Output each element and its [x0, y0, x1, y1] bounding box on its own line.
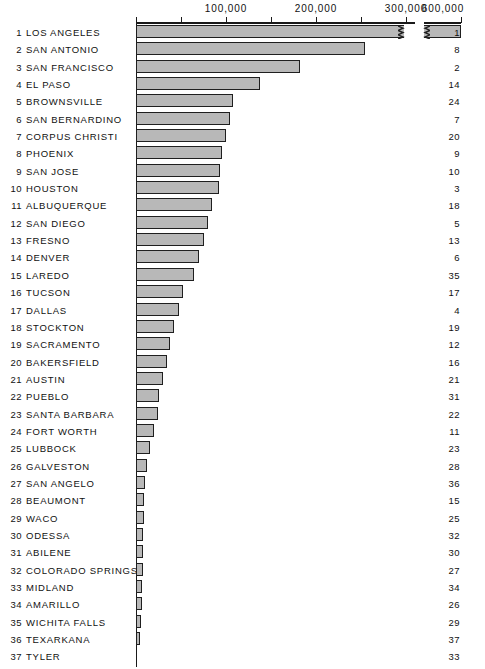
row-right-rank: 30 [440, 547, 460, 558]
row-city-label: TUCSON [26, 287, 71, 298]
chart-row: 3SAN FRANCISCO2 [0, 59, 485, 76]
row-right-rank: 4 [440, 305, 460, 316]
row-rank: 8 [4, 148, 22, 159]
row-right-rank: 20 [440, 131, 460, 142]
row-rank: 20 [4, 357, 22, 368]
bar [136, 632, 140, 645]
row-rank: 2 [4, 44, 22, 55]
bar [136, 320, 174, 333]
row-city-label: LUBBOCK [26, 443, 77, 454]
row-city-label: CORPUS CHRISTI [26, 131, 118, 142]
row-rank: 31 [4, 547, 22, 558]
row-rank: 16 [4, 287, 22, 298]
row-rank: 3 [4, 62, 22, 73]
row-rank: 33 [4, 582, 22, 593]
chart-row: 7CORPUS CHRISTI20 [0, 128, 485, 145]
row-city-label: ABILENE [26, 547, 71, 558]
row-right-rank: 25 [440, 513, 460, 524]
bar [136, 60, 300, 73]
row-right-rank: 5 [440, 218, 460, 229]
chart-row: 22PUEBLO31 [0, 388, 485, 405]
row-city-label: GALVESTON [26, 461, 90, 472]
row-city-label: SAN ANTONIO [26, 44, 99, 55]
chart-row: 6SAN BERNARDINO7 [0, 111, 485, 128]
row-rank: 27 [4, 478, 22, 489]
chart-row: 20BAKERSFIELD16 [0, 354, 485, 371]
row-city-label: LAREDO [26, 270, 70, 281]
row-rank: 10 [4, 183, 22, 194]
row-rank: 22 [4, 391, 22, 402]
chart-row: 32COLORADO SPRINGS27 [0, 562, 485, 579]
row-right-rank: 11 [440, 426, 460, 437]
chart-row: 19SACRAMENTO12 [0, 336, 485, 353]
bar [136, 146, 222, 159]
row-rank: 7 [4, 131, 22, 142]
tick-600000 [461, 17, 462, 23]
row-city-label: STOCKTON [26, 322, 84, 333]
row-right-rank: 27 [440, 565, 460, 576]
row-city-label: DALLAS [26, 305, 67, 316]
row-rank: 4 [4, 79, 22, 90]
row-city-label: SACRAMENTO [26, 339, 100, 350]
chart-row: 23SANTA BARBARA22 [0, 406, 485, 423]
row-rank: 35 [4, 617, 22, 628]
chart-row: 14DENVER6 [0, 249, 485, 266]
row-right-rank: 9 [440, 148, 460, 159]
chart-row: 13FRESNO13 [0, 232, 485, 249]
row-right-rank: 17 [440, 287, 460, 298]
row-rank: 5 [4, 96, 22, 107]
row-right-rank: 14 [440, 79, 460, 90]
row-rank: 12 [4, 218, 22, 229]
row-right-rank: 21 [440, 374, 460, 385]
bar [136, 389, 159, 402]
chart-row: 9SAN JOSE10 [0, 163, 485, 180]
chart-row: 30ODESSA32 [0, 527, 485, 544]
row-right-rank: 8 [440, 44, 460, 55]
row-city-label: SAN FRANCISCO [26, 62, 114, 73]
chart-row: 29WACO25 [0, 510, 485, 527]
chart-row: 27SAN ANGELO36 [0, 475, 485, 492]
bar [136, 303, 179, 316]
row-rank: 11 [4, 200, 22, 211]
row-rank: 13 [4, 235, 22, 246]
bar [136, 615, 141, 628]
row-rank: 9 [4, 166, 22, 177]
bar [136, 77, 260, 90]
row-rank: 21 [4, 374, 22, 385]
row-city-label: TYLER [26, 651, 60, 662]
chart-row: 34AMARILLO26 [0, 596, 485, 613]
bar [136, 112, 230, 125]
row-right-rank: 3 [440, 183, 460, 194]
row-rank: 25 [4, 443, 22, 454]
row-rank: 14 [4, 252, 22, 263]
bar [136, 493, 144, 506]
row-city-label: SAN DIEGO [26, 218, 86, 229]
chart-row: 1LOS ANGELES1 [0, 24, 485, 41]
chart-row: 5BROWNSVILLE24 [0, 93, 485, 110]
row-right-rank: 22 [440, 409, 460, 420]
chart-rows: 1LOS ANGELES12SAN ANTONIO83SAN FRANCISCO… [0, 24, 485, 666]
row-right-rank: 33 [440, 651, 460, 662]
row-rank: 6 [4, 114, 22, 125]
bar [136, 459, 147, 472]
row-right-rank: 6 [440, 252, 460, 263]
row-city-label: DENVER [26, 252, 70, 263]
row-city-label: ALBUQUERQUE [26, 200, 107, 211]
chart-row: 36TEXARKANA37 [0, 631, 485, 648]
row-rank: 23 [4, 409, 22, 420]
row-right-rank: 31 [440, 391, 460, 402]
row-right-rank: 29 [440, 617, 460, 628]
bar [136, 129, 226, 142]
bar [136, 250, 199, 263]
row-city-label: PHOENIX [26, 148, 74, 159]
chart-row: 12SAN DIEGO5 [0, 215, 485, 232]
row-right-rank: 16 [440, 357, 460, 368]
bar [136, 580, 142, 593]
chart-row: 8PHOENIX9 [0, 145, 485, 162]
axis-label-100000: 100,000 [205, 3, 247, 14]
row-right-rank: 37 [440, 634, 460, 645]
axis-break-zigzag-right [423, 25, 430, 38]
row-city-label: TEXARKANA [26, 634, 90, 645]
chart-row: 21AUSTIN21 [0, 371, 485, 388]
chart-row: 16TUCSON17 [0, 284, 485, 301]
